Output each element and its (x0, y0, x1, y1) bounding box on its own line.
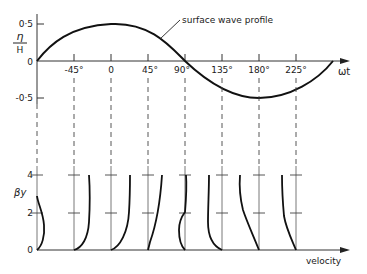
y-tick-label-0.5: 0·5 (19, 19, 33, 29)
surface-wave-annotation: surface wave profile (182, 15, 274, 25)
phase-connector-lines (37, 78, 296, 166)
wave-velocity-diagram: 0·5 0 -0·5 η H ωt -45° 0 45° 90° 135° 18… (0, 0, 367, 274)
profile-reference-lines (37, 166, 296, 250)
phase-label-90: 90° (174, 65, 190, 75)
x-label-velocity: velocity (306, 256, 342, 266)
y-label-denominator: H (17, 45, 24, 55)
phase-label-0: 0 (108, 65, 114, 75)
phase-label-180: 180° (248, 65, 270, 75)
lower-panel: βy 4 2 0 velocity (13, 166, 350, 266)
y-tick-label-0: 0 (27, 245, 33, 255)
phase-label-135: 135° (211, 65, 233, 75)
y-label-beta-y: βy (13, 187, 27, 198)
velocity-profile-minus-45 (74, 175, 90, 250)
y-label-numerator: η (17, 30, 24, 43)
velocity-profile-45 (148, 175, 162, 250)
arrow-right-icon (340, 58, 350, 64)
x-label-omega-t: ωt (338, 66, 350, 77)
velocity-profile-135 (208, 175, 222, 250)
phase-label-minus-45: -45° (64, 65, 83, 75)
velocity-profile-180 (240, 175, 259, 250)
arrow-right-icon (340, 247, 350, 253)
velocity-profile-minus-90 (37, 196, 44, 250)
phase-label-45: 45° (142, 65, 158, 75)
y-tick-label-0: 0 (27, 57, 33, 67)
velocity-profile-0 (111, 175, 130, 250)
velocity-profile-225 (282, 175, 296, 250)
y-tick-label-minus-0.5: -0·5 (15, 93, 33, 103)
phase-label-225: 225° (285, 65, 307, 75)
annotation-leader-line (160, 20, 180, 39)
beta-y-ticks (31, 175, 302, 213)
upper-panel: 0·5 0 -0·5 η H ωt -45° 0 45° 90° 135° 18… (13, 14, 350, 104)
